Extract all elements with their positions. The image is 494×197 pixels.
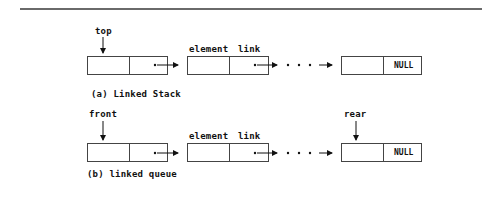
ellipsis-dots xyxy=(287,152,311,154)
arrows-layer xyxy=(0,0,494,197)
link-arrow-1 xyxy=(154,64,178,66)
link-arrow-2 xyxy=(254,152,277,154)
link-arrow-1 xyxy=(154,152,178,154)
ellipsis-dots xyxy=(287,64,311,66)
link-arrow-2 xyxy=(254,64,277,66)
